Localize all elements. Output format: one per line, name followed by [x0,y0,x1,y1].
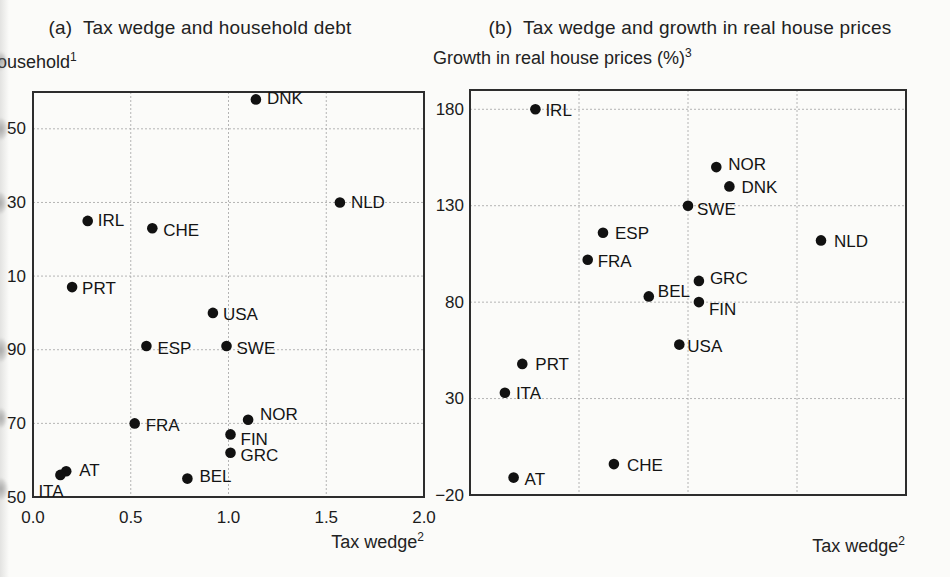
y-tick-label-130: 130 [436,196,464,215]
data-point-label-FRA: FRA [598,252,633,271]
data-point-BEL [182,473,193,484]
figure-root: (a) Tax wedge and household debt ousehol… [0,0,950,577]
data-point-FIN [694,297,705,308]
data-point-label-DNK: DNK [741,178,778,197]
data-point-PRT [517,359,528,370]
data-point-NOR [243,414,254,425]
data-point-DNK [724,181,735,192]
data-point-label-BEL: BEL [199,467,231,486]
data-point-label-BEL: BEL [658,282,690,301]
data-point-NLD [816,235,827,246]
x-tick-label-05: 0.5 [119,508,143,527]
data-point-SWE [221,341,232,352]
data-point-label-PRT: PRT [535,355,569,374]
data-point-label-NLD: NLD [351,193,385,212]
data-point-label-PRT: PRT [82,279,116,298]
data-point-label-AT: AT [525,470,545,489]
data-point-label-SWE: SWE [237,339,276,358]
y-tick-label-50: 50 [7,488,26,507]
data-point-FRA [582,254,593,265]
data-point-ITA [500,388,511,399]
scatter-panel-a: 5030109070500.00.51.01.52.0DNKNLDIRLCHEP… [7,89,436,527]
data-point-label-AT: AT [79,461,99,480]
y-tick-label-70: 70 [7,414,26,433]
data-point-ESP [598,227,609,238]
data-point-label-ESP: ESP [615,224,649,243]
data-point-AT [508,472,519,483]
y-tick-label-20: −20 [435,486,464,505]
y-tick-label-10: 10 [7,267,26,286]
data-point-USA [674,339,685,350]
data-point-label-IRL: IRL [545,101,571,120]
data-point-CHE [609,459,620,470]
data-point-FRA [129,418,140,429]
data-point-label-SWE: SWE [697,200,736,219]
x-tick-label-00: 0.0 [21,508,45,527]
data-point-USA [208,308,219,319]
data-point-label-USA: USA [223,305,259,324]
data-point-label-IRL: IRL [98,211,124,230]
y-tick-label-90: 90 [7,340,26,359]
data-point-label-DNK: DNK [267,89,304,108]
y-tick-label-180: 180 [436,100,464,119]
data-point-label-ITA: ITA [516,384,542,403]
data-point-label-NOR: NOR [260,405,298,424]
data-point-label-NOR: NOR [728,155,766,174]
x-tick-label-15: 1.5 [314,508,338,527]
data-point-CHE [147,223,158,234]
scatter-panel-b: 1801308030−20IRLNORDNKSWEESPNLDFRAGRCBEL… [435,90,906,505]
data-point-PRT [67,282,78,293]
data-point-ITA [55,470,66,481]
data-point-IRL [82,216,93,227]
data-point-label-FIN: FIN [709,300,736,319]
y-tick-label-30: 30 [445,389,464,408]
data-point-label-USA: USA [687,337,723,356]
data-point-GRC [225,448,236,459]
x-tick-label-20: 2.0 [412,508,436,527]
data-point-BEL [644,291,655,302]
data-point-label-CHE: CHE [627,456,663,475]
scatter-plots-canvas: 5030109070500.00.51.01.52.0DNKNLDIRLCHEP… [0,0,950,577]
x-tick-label-10: 1.0 [217,508,241,527]
y-tick-label-30: 30 [7,193,26,212]
data-point-NLD [335,197,346,208]
data-point-label-ESP: ESP [157,339,191,358]
data-point-label-GRC: GRC [710,269,748,288]
data-point-label-ITA: ITA [38,482,64,501]
data-point-label-FRA: FRA [146,416,181,435]
data-point-DNK [251,94,262,105]
data-point-label-CHE: CHE [163,221,199,240]
data-point-SWE [683,200,694,211]
data-point-NOR [711,162,722,173]
data-point-label-GRC: GRC [241,446,279,465]
y-tick-label-50: 50 [7,119,26,138]
y-tick-label-80: 80 [445,293,464,312]
data-point-IRL [530,104,541,115]
data-point-ESP [141,341,152,352]
data-point-label-NLD: NLD [834,232,868,251]
data-point-FIN [225,429,236,440]
data-point-GRC [694,276,705,287]
